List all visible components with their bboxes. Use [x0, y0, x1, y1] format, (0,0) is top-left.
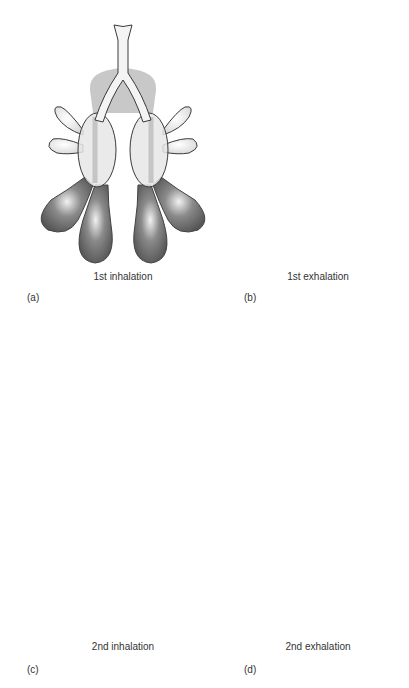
label-panel-a: (a)	[27, 292, 39, 303]
caption-panel-c: 2nd inhalation	[53, 641, 193, 652]
caption-panel-d: 2nd exhalation	[248, 641, 388, 652]
label-panel-c: (c)	[27, 664, 39, 675]
label-panel-d: (d)	[244, 664, 256, 675]
air-sac-respiration-diagram	[0, 0, 409, 688]
posterior-air-sacs-inflated	[41, 177, 205, 263]
label-panel-b: (b)	[244, 292, 256, 303]
caption-panel-a: 1st inhalation	[53, 271, 193, 282]
panel-a-figure	[41, 25, 205, 263]
caption-panel-b: 1st exhalation	[248, 271, 388, 282]
